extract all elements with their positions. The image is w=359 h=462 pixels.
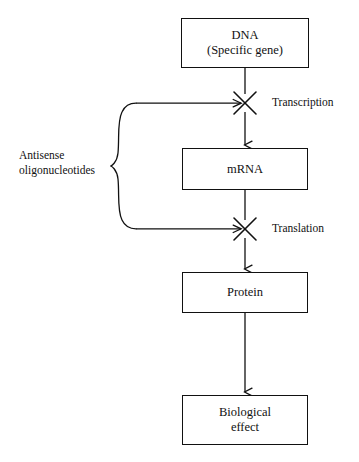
node-protein: Protein <box>182 272 308 313</box>
node-biological-effect-label: Biological effect <box>215 405 275 435</box>
node-dna: DNA (Specific gene) <box>181 18 309 68</box>
node-mrna: mRNA <box>182 148 308 190</box>
inhibitor-label-antisense-oligonucleotides: Antisense oligonucleotides <box>19 148 95 177</box>
node-biological-effect: Biological effect <box>182 395 308 445</box>
node-protein-label: Protein <box>223 285 267 300</box>
node-mrna-label: mRNA <box>223 162 267 177</box>
curly-brace-icon <box>111 103 136 229</box>
node-dna-label: DNA (Specific gene) <box>203 28 287 58</box>
process-label-transcription: Transcription <box>272 96 334 109</box>
process-label-translation: Translation <box>272 222 324 235</box>
diagram-canvas: DNA (Specific gene) mRNA Protein Biologi… <box>0 0 359 462</box>
